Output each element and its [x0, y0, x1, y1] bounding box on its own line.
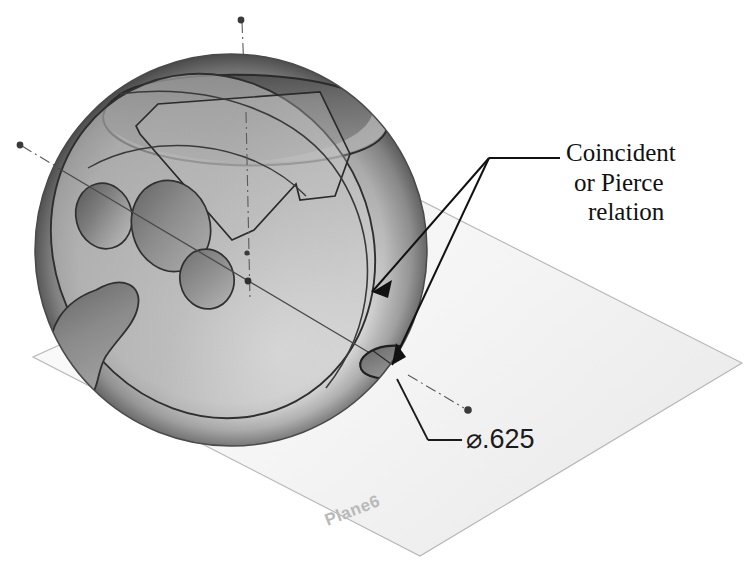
axis-endpoint-right[interactable] — [464, 406, 472, 414]
cad-illustration-svg — [0, 0, 754, 569]
axis-midpoint[interactable] — [244, 250, 249, 255]
axis-endpoint-left[interactable] — [17, 142, 24, 149]
callout-label-line3: relation — [566, 197, 676, 227]
diameter-dimension-label[interactable]: ⌀.625 — [466, 424, 535, 456]
callout-label: Coincident or Pierce relation — [566, 138, 676, 227]
callout-label-line2: or Pierce — [566, 168, 676, 198]
callout-label-line1: Coincident — [566, 138, 676, 168]
origin-point[interactable] — [245, 278, 252, 285]
axis-endpoint-top[interactable] — [238, 17, 245, 24]
figure-canvas: Coincident or Pierce relation ⌀.625 Plan… — [0, 0, 754, 569]
